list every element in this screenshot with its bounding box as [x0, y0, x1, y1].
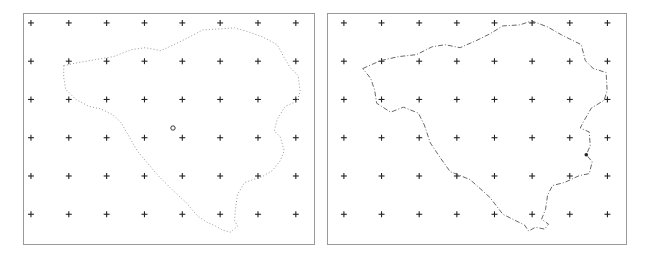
grid-cross-marker	[529, 173, 535, 179]
grid-cross-marker	[341, 211, 347, 217]
grid-cross-marker	[141, 211, 147, 217]
grid-cross-marker	[604, 173, 610, 179]
grid-cross-marker	[179, 173, 185, 179]
right-panel	[327, 13, 627, 245]
grid-cross-marker	[492, 211, 498, 217]
grid-cross-marker	[454, 96, 460, 102]
grid-cross-marker	[567, 96, 573, 102]
grid-cross-marker	[293, 135, 299, 141]
grid-cross-marker	[141, 135, 147, 141]
grid-cross-marker	[179, 20, 185, 26]
center-point-marker	[171, 126, 175, 130]
grid-cross-marker	[341, 135, 347, 141]
grid-cross-marker	[255, 58, 261, 64]
grid-cross-marker	[454, 58, 460, 64]
left-panel	[23, 13, 315, 245]
grid-cross-marker	[179, 58, 185, 64]
grid-cross-marker	[492, 58, 498, 64]
highlighted-point-marker	[584, 153, 588, 157]
grid-cross-marker	[66, 135, 72, 141]
grid-cross-marker	[255, 96, 261, 102]
grid-cross-marker	[567, 173, 573, 179]
grid-cross-marker	[604, 20, 610, 26]
grid-cross-marker	[28, 20, 34, 26]
grid-cross-marker	[341, 96, 347, 102]
grid-cross-marker	[492, 173, 498, 179]
grid-cross-marker	[104, 96, 110, 102]
grid-cross-marker	[179, 135, 185, 141]
grid-cross-marker	[255, 20, 261, 26]
grid-cross-marker	[255, 135, 261, 141]
grid-cross-marker	[293, 211, 299, 217]
grid-cross-marker	[416, 96, 422, 102]
grid-cross-marker	[179, 211, 185, 217]
grid-cross-marker	[28, 211, 34, 217]
grid-cross-marker	[379, 96, 385, 102]
grid-cross-marker	[179, 96, 185, 102]
grid-cross-marker	[104, 173, 110, 179]
grid-cross-marker	[28, 173, 34, 179]
grid-cross-marker	[217, 135, 223, 141]
grid-cross-marker	[28, 96, 34, 102]
grid-cross-marker	[217, 96, 223, 102]
grid-cross-marker	[604, 58, 610, 64]
grid-cross-marker	[66, 20, 72, 26]
grid-cross-marker	[379, 135, 385, 141]
grid-cross-marker	[217, 173, 223, 179]
grid-cross-marker	[416, 135, 422, 141]
grid-cross-marker	[217, 58, 223, 64]
grid-cross-marker	[293, 58, 299, 64]
grid-cross-marker	[567, 211, 573, 217]
grid-cross-marker	[104, 211, 110, 217]
grid-cross-marker	[104, 20, 110, 26]
grid-cross-marker	[66, 211, 72, 217]
grid-cross-marker	[379, 20, 385, 26]
right-region-outline	[363, 21, 607, 231]
right-cross-grid	[341, 20, 610, 217]
grid-cross-marker	[293, 20, 299, 26]
grid-cross-marker	[141, 58, 147, 64]
grid-cross-marker	[217, 20, 223, 26]
grid-cross-marker	[416, 173, 422, 179]
grid-cross-marker	[529, 135, 535, 141]
grid-cross-marker	[66, 58, 72, 64]
grid-cross-marker	[529, 58, 535, 64]
grid-cross-marker	[104, 135, 110, 141]
grid-cross-marker	[454, 135, 460, 141]
grid-cross-marker	[141, 20, 147, 26]
grid-cross-marker	[529, 211, 535, 217]
grid-cross-marker	[454, 211, 460, 217]
grid-cross-marker	[492, 135, 498, 141]
grid-cross-marker	[255, 211, 261, 217]
grid-cross-marker	[567, 135, 573, 141]
grid-cross-marker	[416, 211, 422, 217]
grid-cross-marker	[379, 173, 385, 179]
right-panel-canvas	[328, 14, 626, 244]
grid-cross-marker	[341, 173, 347, 179]
left-panel-canvas	[24, 14, 314, 244]
grid-cross-marker	[379, 211, 385, 217]
grid-cross-marker	[454, 20, 460, 26]
grid-cross-marker	[66, 96, 72, 102]
grid-cross-marker	[604, 211, 610, 217]
grid-cross-marker	[28, 58, 34, 64]
grid-cross-marker	[416, 58, 422, 64]
grid-cross-marker	[141, 96, 147, 102]
grid-cross-marker	[66, 173, 72, 179]
grid-cross-marker	[104, 58, 110, 64]
grid-cross-marker	[416, 20, 422, 26]
grid-cross-marker	[604, 135, 610, 141]
grid-cross-marker	[341, 58, 347, 64]
grid-cross-marker	[217, 211, 223, 217]
grid-cross-marker	[379, 58, 385, 64]
grid-cross-marker	[529, 96, 535, 102]
grid-cross-marker	[567, 20, 573, 26]
grid-cross-marker	[492, 20, 498, 26]
grid-cross-marker	[492, 96, 498, 102]
grid-cross-marker	[141, 173, 147, 179]
grid-cross-marker	[28, 135, 34, 141]
grid-cross-marker	[293, 173, 299, 179]
grid-cross-marker	[567, 58, 573, 64]
grid-cross-marker	[341, 20, 347, 26]
